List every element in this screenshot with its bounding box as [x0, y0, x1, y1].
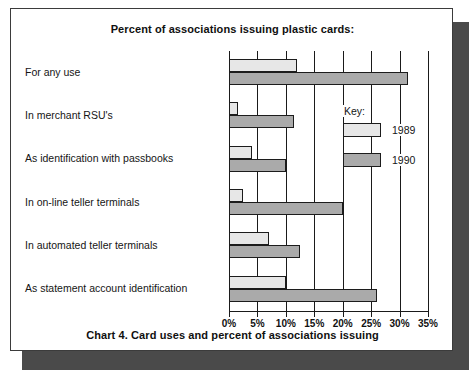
x-axis-tick-label: 5% — [250, 318, 264, 329]
category-axis-labels: For any useIn merchant RSU'sAs identific… — [25, 51, 225, 311]
bar-1989 — [229, 102, 238, 115]
x-axis-tick — [286, 311, 287, 317]
gridline — [428, 51, 429, 311]
legend-label-1989: 1989 — [391, 124, 416, 136]
bar-1989 — [229, 146, 252, 159]
x-axis-tick — [314, 311, 315, 317]
x-axis-tick — [428, 311, 429, 317]
category-label: As identification with passbooks — [25, 152, 225, 164]
bar-rows — [229, 51, 428, 311]
bar-1990 — [229, 202, 343, 215]
bar-1989 — [229, 276, 286, 289]
bar-1990 — [229, 115, 294, 128]
x-axis-tick-label: 10% — [276, 318, 296, 329]
x-axis-tick-label: 35% — [418, 318, 438, 329]
x-axis-ticks — [229, 311, 429, 317]
x-axis-tick-label: 25% — [361, 318, 381, 329]
x-axis-tick — [371, 311, 372, 317]
legend-label-1990: 1990 — [391, 154, 416, 166]
legend-swatch-1990 — [343, 153, 381, 167]
category-label: In automated teller terminals — [25, 239, 225, 251]
chart-caption: Chart 4. Card uses and percent of associ… — [11, 329, 454, 341]
category-label: In on-line teller terminals — [25, 196, 225, 208]
chart-card: Percent of associations issuing plastic … — [10, 8, 453, 351]
x-axis-tick-label: 0% — [222, 318, 236, 329]
bar-row — [229, 181, 428, 224]
x-axis-tick — [229, 311, 230, 317]
bar-row — [229, 51, 428, 94]
x-axis-tick — [400, 311, 401, 317]
bar-1990 — [229, 72, 408, 85]
category-label: For any use — [25, 66, 225, 78]
legend-title: Key: — [343, 105, 366, 117]
bar-1989 — [229, 232, 269, 245]
category-label: In merchant RSU's — [25, 109, 225, 121]
bar-row — [229, 268, 428, 311]
plot-area — [229, 51, 428, 311]
chart-title: Percent of associations issuing plastic … — [11, 23, 454, 35]
legend: Key: 19891990 — [341, 105, 441, 181]
bar-1989 — [229, 189, 243, 202]
bar-1990 — [229, 289, 377, 302]
x-axis-tick — [257, 311, 258, 317]
bar-1989 — [229, 59, 297, 72]
bar-1990 — [229, 245, 300, 258]
bar-row — [229, 224, 428, 267]
x-axis-tick-label: 20% — [333, 318, 353, 329]
bar-1990 — [229, 159, 286, 172]
category-label: As statement account identification — [25, 282, 225, 294]
x-axis-tick — [343, 311, 344, 317]
x-axis-tick-label: 30% — [390, 318, 410, 329]
legend-swatch-1989 — [343, 123, 381, 137]
x-axis-tick-label: 15% — [304, 318, 324, 329]
chart-figure: Percent of associations issuing plastic … — [0, 0, 475, 377]
